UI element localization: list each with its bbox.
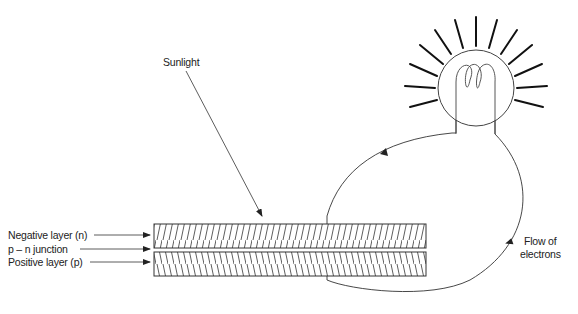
solar-cell	[154, 224, 426, 276]
positive-layer	[154, 252, 426, 276]
sunlight-label: Sunlight	[163, 56, 200, 68]
negative-layer	[154, 224, 426, 248]
flow-arrow-right	[505, 237, 515, 246]
layer-labels: Negative layer (n) p – n junction Positi…	[8, 229, 150, 268]
flow-label-line2: electrons	[520, 248, 561, 260]
flow-label: Flow of electrons	[520, 235, 561, 260]
solar-cell-diagram: Negative layer (n) p – n junction Positi…	[0, 0, 578, 314]
bulb-glass-icon	[438, 50, 514, 126]
positive-layer-label: Positive layer (p)	[8, 256, 83, 268]
light-bulb	[438, 50, 514, 134]
junction-label: p – n junction	[8, 243, 68, 255]
sunlight-arrow	[186, 71, 262, 216]
wire-upper	[327, 116, 456, 224]
negative-layer-label: Negative layer (n)	[8, 229, 87, 241]
flow-label-line1: Flow of	[524, 235, 557, 247]
sunlight-indicator: Sunlight	[163, 56, 262, 216]
